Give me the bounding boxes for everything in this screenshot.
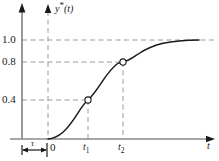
x-axis-tick-label-origin: 0 bbox=[50, 142, 56, 153]
y-axis-arrowhead-icon bbox=[19, 3, 26, 13]
t2-subscript: 2 bbox=[121, 146, 125, 155]
y-axis-title-argument: (t) bbox=[64, 3, 73, 14]
marker-point-t2 bbox=[120, 59, 126, 65]
y-axis-tick-label-0.8: 0.8 bbox=[2, 56, 16, 67]
step-response-figure: 1.0 0.8 0.4 0 t1 t2 t y*(t) τ bbox=[0, 0, 219, 161]
t1-subscript: 1 bbox=[86, 146, 90, 155]
tau-arrowhead-right-icon bbox=[41, 148, 47, 153]
y-axis-tick-label-0.4: 0.4 bbox=[2, 94, 16, 105]
plot-canvas bbox=[0, 0, 219, 161]
x-axis-tick-label-t2: t2 bbox=[118, 142, 125, 155]
marker-point-t1 bbox=[85, 97, 91, 103]
y-axis-title: y*(t) bbox=[55, 1, 73, 14]
tau-arrowhead-left-icon bbox=[22, 148, 28, 153]
y-axis-tick-label-1.0: 1.0 bbox=[2, 34, 16, 45]
x-axis-title: t bbox=[207, 141, 210, 151]
x-axis-tick-label-t1: t1 bbox=[83, 142, 90, 155]
origin-axis-arrowhead-icon bbox=[45, 4, 52, 13]
dead-time-label: τ bbox=[31, 140, 34, 148]
